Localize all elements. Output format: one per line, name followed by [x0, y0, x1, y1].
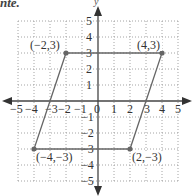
y-tick-label: 2	[86, 62, 92, 76]
x-tick-label: −5	[10, 102, 23, 116]
coordinate-plane: y −5 −4 −3 −2 −1 0 1 2 3 4 5 5 4 3 2 1 −…	[0, 0, 194, 196]
y-tick-label: −2	[81, 126, 94, 140]
x-tick-label: −2	[58, 102, 71, 116]
y-tick-label: −5	[81, 174, 94, 188]
vertex-point	[63, 50, 68, 55]
y-axis-down-arrow-icon	[94, 186, 102, 196]
vertex-label: (2,−3)	[132, 150, 162, 164]
y-axis-name: y	[93, 0, 99, 7]
y-axis: y	[93, 0, 102, 196]
vertex-label: (−2,3)	[30, 38, 60, 52]
x-tick-label: 1	[111, 102, 117, 116]
x-tick-label: 4	[159, 102, 165, 116]
y-tick-label: −1	[81, 110, 94, 124]
vertex-label: (−4,−3)	[36, 150, 73, 164]
x-tick-labels: −5 −4 −3 −2 −1 0 1 2 3 4 5	[10, 102, 181, 116]
y-tick-label: −4	[81, 158, 94, 172]
vertex-point	[159, 50, 164, 55]
y-axis-up-arrow-icon	[94, 6, 102, 16]
x-axis-right-arrow-icon	[182, 97, 192, 105]
x-tick-label: 2	[127, 102, 133, 116]
x-tick-label: 5	[175, 102, 181, 116]
vertex-label: (4,3)	[137, 38, 160, 52]
y-tick-label: 1	[86, 78, 92, 92]
y-tick-label: 4	[86, 30, 92, 44]
y-tick-label: 5	[86, 14, 92, 28]
x-tick-label: 0	[94, 102, 100, 116]
x-tick-label: −4	[25, 102, 38, 116]
